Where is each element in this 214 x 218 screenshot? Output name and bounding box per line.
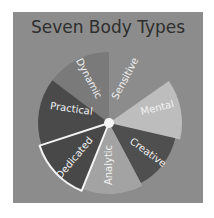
body-types-wheel: Dynamic Sensitive Mental Creative Analyt…: [0, 0, 214, 218]
label-analytic: Analytic: [103, 145, 114, 185]
wheel-hub: [104, 118, 114, 128]
